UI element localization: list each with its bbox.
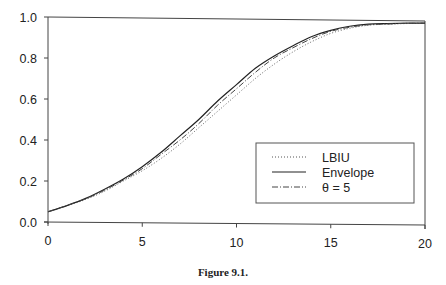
legend-label-envelope: Envelope <box>322 166 374 180</box>
y-tick-label: 0.6 <box>20 93 37 107</box>
legend-label-lbiu: LBIU <box>322 151 350 165</box>
x-tick-label: 0 <box>45 234 52 248</box>
x-tick-label: 5 <box>139 235 146 249</box>
top-border <box>48 17 425 21</box>
x-tick-label: 20 <box>418 237 432 251</box>
x-tick-label: 10 <box>230 236 244 250</box>
y-tick-label: 1.0 <box>20 11 37 25</box>
y-axis: 0.00.20.40.60.81.0 <box>20 11 48 230</box>
chart: 0.00.20.40.60.81.0 05101520 LBIU Envelop… <box>0 0 446 285</box>
x-axis-line <box>44 222 425 225</box>
legend-label-theta5: θ = 5 <box>322 181 350 195</box>
y-tick-label: 0.2 <box>20 175 37 189</box>
x-axis: 05101520 <box>45 222 432 251</box>
y-tick-label: 0.0 <box>20 216 37 230</box>
figure-caption: Figure 9.1. <box>0 266 446 278</box>
y-tick-label: 0.4 <box>20 134 37 148</box>
legend: LBIU Envelope θ = 5 <box>256 143 414 203</box>
x-tick-label: 15 <box>324 236 338 250</box>
y-tick-label: 0.8 <box>20 52 37 66</box>
